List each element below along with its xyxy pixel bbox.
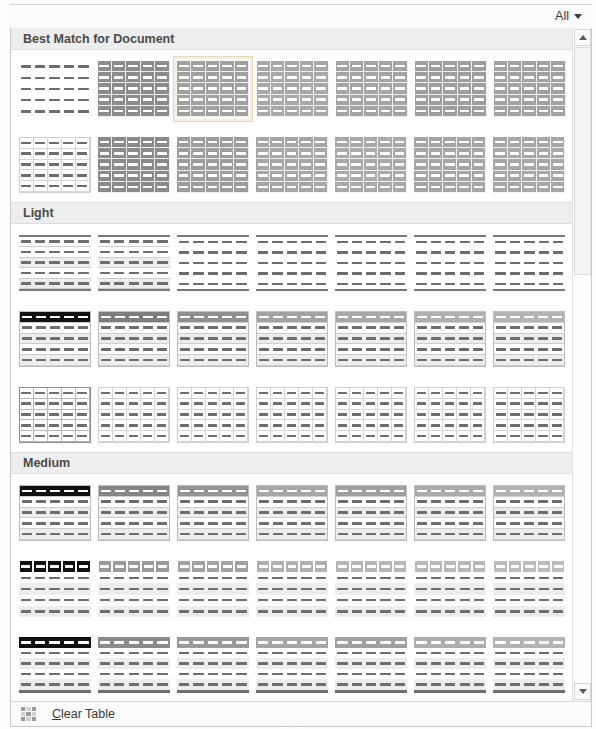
thumbnail-text-dash [431, 283, 441, 286]
table-style-item[interactable] [411, 382, 490, 448]
scrollbar-thumb[interactable] [574, 47, 591, 275]
table-style-item[interactable] [94, 632, 173, 698]
table-style-item[interactable] [94, 382, 173, 448]
table-style-item[interactable] [173, 632, 252, 698]
thumbnail-cell [178, 323, 192, 333]
table-style-item[interactable] [490, 556, 569, 622]
table-style-item[interactable] [490, 480, 569, 546]
table-style-item[interactable] [332, 382, 411, 448]
thumbnail-row [256, 669, 328, 680]
filter-dropdown-all[interactable]: All [555, 9, 582, 23]
thumbnail-cell [127, 572, 141, 583]
thumbnail-text-dash [416, 251, 426, 254]
table-style-item[interactable] [490, 230, 569, 296]
thumbnail-text-dash [394, 490, 404, 493]
thumbnail-cell [392, 399, 406, 409]
table-style-item[interactable] [332, 230, 411, 296]
table-style-item[interactable] [411, 556, 490, 622]
table-style-item[interactable] [252, 306, 331, 372]
table-style-item[interactable] [411, 632, 490, 698]
thumbnail-text-dash [315, 413, 324, 416]
table-style-item[interactable] [173, 480, 252, 546]
table-style-item[interactable] [490, 56, 569, 122]
table-style-item[interactable] [332, 132, 411, 198]
table-style-item[interactable] [490, 132, 569, 198]
thumbnail-cell [429, 658, 443, 669]
thumbnail-cell [99, 323, 113, 333]
table-style-item[interactable] [252, 382, 331, 448]
table-style-item[interactable] [173, 230, 252, 296]
thumbnail-row [257, 355, 327, 366]
thumbnail-cell [336, 561, 348, 572]
table-style-item[interactable] [252, 230, 331, 296]
table-style-item[interactable] [15, 632, 94, 698]
table-style-item[interactable] [411, 480, 490, 546]
table-style-item[interactable] [332, 306, 411, 372]
table-style-item[interactable] [15, 382, 94, 448]
thumbnail-row [336, 344, 406, 355]
table-style-item-selected[interactable] [173, 56, 253, 122]
table-style-item[interactable] [15, 556, 94, 622]
thumbnail-text-dash [381, 76, 391, 79]
table-style-item[interactable] [173, 382, 252, 448]
thumbnail-text-dash [36, 511, 46, 514]
table-style-item[interactable] [173, 132, 252, 198]
thumbnail-text-dash [287, 641, 297, 644]
thumbnail-text-dash [100, 240, 110, 243]
table-style-item[interactable] [332, 480, 411, 546]
thumbnail-text-dash [64, 251, 74, 254]
thumbnail-cell [364, 606, 378, 617]
table-style-item[interactable] [252, 556, 331, 622]
scroll-down-button[interactable] [574, 683, 591, 700]
thumbnail-text-dash [510, 348, 520, 351]
gallery-scrollbar[interactable] [572, 28, 591, 701]
thumbnail-cell [472, 95, 486, 105]
table-style-item[interactable] [94, 132, 173, 198]
thumbnail-text-dash [100, 662, 110, 665]
thumbnail-text-dash [193, 599, 203, 602]
thumbnail-text-dash [538, 326, 548, 329]
table-style-item[interactable] [411, 56, 490, 122]
thumbnail-text-dash [114, 98, 124, 101]
table-style-item[interactable] [94, 556, 173, 622]
thumbnail-cell [206, 159, 220, 169]
table-style-item[interactable] [15, 230, 94, 296]
table-style-item[interactable] [173, 556, 252, 622]
clear-table-command[interactable]: Clear Table [21, 707, 115, 721]
table-style-item[interactable] [490, 632, 569, 698]
thumbnail-text-dash [496, 500, 506, 503]
table-style-item[interactable] [15, 56, 94, 122]
thumbnail-cell [271, 410, 285, 420]
table-style-item[interactable] [490, 382, 569, 448]
table-style-item[interactable] [253, 56, 332, 122]
thumbnail-cell [429, 247, 443, 257]
table-style-item[interactable] [252, 480, 331, 546]
table-style-item[interactable] [94, 56, 173, 122]
thumbnail-cell [99, 518, 113, 528]
thumbnail-cell [141, 268, 155, 277]
thumbnail-text-dash [445, 272, 455, 275]
table-style-item[interactable] [411, 230, 490, 296]
table-style-item[interactable] [15, 306, 94, 372]
thumbnail-text-dash [259, 565, 268, 568]
table-style-item[interactable] [332, 556, 411, 622]
table-style-item[interactable] [15, 132, 94, 198]
table-style-item[interactable] [411, 306, 490, 372]
table-style-item[interactable] [94, 306, 173, 372]
thumbnail-text-dash [100, 272, 110, 275]
scroll-up-button[interactable] [574, 29, 591, 46]
table-style-item[interactable] [15, 480, 94, 546]
table-style-item[interactable] [252, 632, 331, 698]
thumbnail-row [177, 106, 249, 117]
table-style-thumbnail [335, 561, 407, 617]
resize-grip[interactable]: · · · · [0, 720, 596, 727]
table-style-item[interactable] [332, 632, 411, 698]
table-style-item[interactable] [94, 230, 173, 296]
thumbnail-cell [127, 431, 141, 441]
table-style-item[interactable] [173, 306, 252, 372]
table-style-item[interactable] [332, 56, 411, 122]
table-style-item[interactable] [411, 132, 490, 198]
table-style-item[interactable] [490, 306, 569, 372]
table-style-item[interactable] [252, 132, 331, 198]
table-style-item[interactable] [94, 480, 173, 546]
